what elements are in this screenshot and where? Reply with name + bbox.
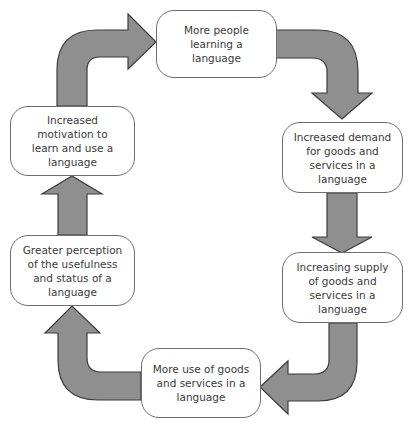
arrow-n1-to-n2 — [276, 30, 372, 119]
node-label: Increased motivation to learn and use a … — [32, 113, 113, 169]
node-label: More use of goods and services in a lang… — [153, 362, 249, 404]
node-more-use: More use of goods and services in a lang… — [141, 348, 261, 418]
node-increased-motivation: Increased motivation to learn and use a … — [10, 106, 135, 176]
arrow-n4-to-n5 — [45, 306, 141, 400]
arrow-n5-to-n6 — [42, 176, 102, 235]
arrow-n2-to-n3 — [312, 193, 372, 253]
node-more-people-learning: More people learning a language — [156, 10, 277, 78]
node-label: Increased demand for goods and services … — [294, 130, 392, 186]
arrow-n6-to-n1 — [57, 14, 156, 106]
node-label: More people learning a language — [184, 23, 249, 65]
arrow-n3-to-n4 — [260, 323, 357, 414]
node-label: Greater perception of the usefulness and… — [23, 243, 123, 299]
node-increased-demand: Increased demand for goods and services … — [282, 122, 403, 193]
node-label: Increasing supply of goods and services … — [296, 260, 388, 316]
node-increasing-supply: Increasing supply of goods and services … — [282, 252, 403, 323]
node-greater-perception: Greater perception of the usefulness and… — [10, 235, 135, 306]
